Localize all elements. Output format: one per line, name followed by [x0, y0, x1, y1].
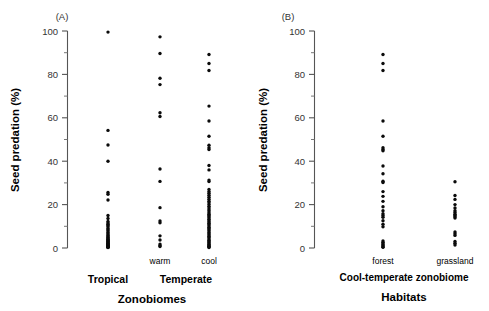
data-point [158, 35, 161, 38]
data-point [207, 168, 210, 171]
panel-a-tag: (A) [56, 11, 69, 22]
data-point [106, 198, 109, 201]
panel-a-group-cool: cool [201, 256, 217, 266]
panel-b-group-forest: forest [372, 256, 394, 266]
panel-a-cat-tropical: Tropical [88, 273, 128, 285]
panel-a-ytick-20: 20 [47, 199, 58, 210]
panel-b-points-grassland [453, 180, 456, 247]
panel-a-points-temperate-cool [207, 53, 210, 250]
data-point [207, 148, 210, 151]
panel-b-y-axis-label: Seed predation (%) [257, 88, 269, 192]
panel-a-ytick-80: 80 [47, 69, 58, 80]
figure-container: (A) 100 80 60 40 20 0 [0, 0, 489, 311]
panel-a-ytick-40: 40 [47, 156, 58, 167]
data-point [158, 206, 161, 209]
data-point [106, 143, 109, 146]
data-point [207, 119, 210, 122]
data-point [381, 215, 384, 218]
data-point [158, 83, 161, 86]
data-point [381, 164, 384, 167]
data-point [158, 245, 161, 248]
data-point [381, 62, 384, 65]
panel-b-ytick-60: 60 [294, 112, 305, 123]
data-point [453, 216, 456, 219]
panel-b-ytick-20: 20 [294, 199, 305, 210]
data-point [381, 149, 384, 152]
data-point [106, 246, 109, 249]
data-point [381, 209, 384, 212]
data-point [106, 192, 109, 195]
data-point [158, 52, 161, 55]
panel-b-ytick-0: 0 [300, 243, 305, 254]
panel-a-x-axis-title: Zonobiomes [118, 293, 186, 305]
data-point [207, 246, 210, 249]
data-point [106, 129, 109, 132]
data-point [453, 234, 456, 237]
figure-svg: (A) 100 80 60 40 20 0 [0, 0, 489, 311]
data-point [381, 172, 384, 175]
data-point [158, 115, 161, 118]
panel-a-ytick-100: 100 [42, 26, 58, 37]
data-point [158, 221, 161, 224]
data-point [106, 217, 109, 220]
data-point [158, 167, 161, 170]
data-point [381, 135, 384, 138]
data-point [207, 69, 210, 72]
data-point [158, 180, 161, 183]
data-point [453, 203, 456, 206]
panel-b-group-grassland: grassland [437, 256, 474, 266]
data-point [381, 69, 384, 72]
panel-a-cat-temperate: Temperate [160, 273, 212, 285]
panel-b-points-forest [381, 53, 384, 249]
data-point [381, 205, 384, 208]
data-point [158, 234, 161, 237]
data-point [381, 119, 384, 122]
data-point [158, 77, 161, 80]
panel-b-ytick-40: 40 [294, 156, 305, 167]
panel-b-ytick-80: 80 [294, 69, 305, 80]
data-point [207, 62, 210, 65]
panel-b-cat-cool-temperate: Cool-temperate zonobiome [340, 272, 469, 283]
panel-a-ytick-60: 60 [47, 112, 58, 123]
panel-a-ytick-0: 0 [53, 243, 58, 254]
data-point [453, 180, 456, 183]
data-point [381, 190, 384, 193]
panel-a-y-ticks [62, 31, 68, 248]
panel-b-y-ticks [309, 31, 315, 248]
data-point [207, 180, 210, 183]
data-point [381, 181, 384, 184]
panel-a-group-warm: warm [149, 256, 171, 266]
panel-a-points-tropical [106, 30, 109, 249]
data-point [106, 160, 109, 163]
data-point [381, 53, 384, 56]
data-point [158, 238, 161, 241]
data-point [453, 243, 456, 246]
data-point [381, 219, 384, 222]
data-point [158, 111, 161, 114]
data-point [381, 195, 384, 198]
data-point [207, 135, 210, 138]
panel-a-y-axis-label: Seed predation (%) [9, 88, 21, 192]
data-point [207, 164, 210, 167]
data-point [207, 104, 210, 107]
data-point [453, 194, 456, 197]
data-point [381, 246, 384, 249]
panel-b: (B) 100 80 60 40 20 0 Seed predatio [257, 11, 474, 303]
panel-a-points-temperate-warm [158, 35, 161, 248]
data-point [453, 198, 456, 201]
data-point [381, 225, 384, 228]
data-point [381, 200, 384, 203]
data-point [106, 214, 109, 217]
panel-b-x-axis-title: Habitats [381, 291, 426, 303]
panel-b-ytick-100: 100 [289, 26, 305, 37]
panel-a: (A) 100 80 60 40 20 0 [9, 11, 217, 305]
data-point [207, 53, 210, 56]
data-point [106, 30, 109, 33]
panel-b-tag: (B) [282, 11, 295, 22]
